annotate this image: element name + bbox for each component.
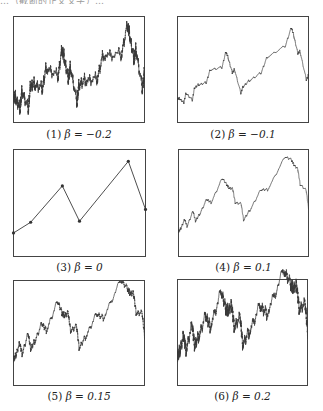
interpolation-point-marker xyxy=(12,231,15,234)
caption-beta: β = −0.2 xyxy=(65,128,112,140)
fractal-curve-line xyxy=(179,157,309,233)
chart-panel-5 xyxy=(13,280,145,386)
caption-beta: β = −0.1 xyxy=(229,128,276,140)
caption-3: (3) β = 0 xyxy=(13,261,146,273)
fractal-curve-line xyxy=(178,269,308,362)
fractal-curve-plot xyxy=(178,149,309,257)
caption-2: (2) β = −0.1 xyxy=(177,128,309,140)
caption-number: (3) xyxy=(56,261,71,273)
caption-beta: β = 0.2 xyxy=(232,390,270,402)
caption-number: (6) xyxy=(214,390,229,402)
interpolation-point-marker xyxy=(127,160,130,163)
fractal-curve-plot xyxy=(13,16,145,123)
interpolation-point-marker xyxy=(78,220,81,223)
caption-6: (6) β = 0.2 xyxy=(177,390,308,402)
fractal-curve-line xyxy=(178,28,309,104)
interpolation-point-marker xyxy=(29,221,32,224)
chart-panel-1 xyxy=(13,16,145,123)
fractal-curve-plot xyxy=(177,279,308,386)
plot-frame xyxy=(178,280,308,386)
caption-beta: β = 0 xyxy=(74,261,102,273)
fractal-curve-plot xyxy=(177,16,309,123)
fractal-curve-line xyxy=(14,21,145,115)
caption-1: (1) β = −0.2 xyxy=(13,128,145,140)
fractal-curve-plot xyxy=(13,149,146,257)
caption-5: (5) β = 0.15 xyxy=(13,390,145,402)
truncated-body-text: …（截断的正文文字）… xyxy=(0,0,323,4)
caption-beta: β = 0.1 xyxy=(233,261,271,273)
caption-number: (5) xyxy=(47,390,62,402)
plot-frame xyxy=(179,150,309,257)
caption-number: (4) xyxy=(215,261,230,273)
plot-frame xyxy=(14,150,146,257)
caption-beta: β = 0.15 xyxy=(66,390,111,402)
interpolation-point-marker xyxy=(144,208,147,211)
plot-frame xyxy=(14,281,145,386)
chart-panel-3 xyxy=(13,149,146,257)
chart-panel-6 xyxy=(177,279,308,386)
chart-panel-4 xyxy=(178,149,309,257)
fractal-curve-plot xyxy=(13,280,145,386)
chart-panel-2 xyxy=(177,16,309,123)
caption-4: (4) β = 0.1 xyxy=(178,261,309,273)
plot-frame xyxy=(14,17,145,123)
caption-number: (1) xyxy=(46,128,61,140)
plot-frame xyxy=(178,17,309,123)
caption-number: (2) xyxy=(210,128,225,140)
interpolation-point-marker xyxy=(61,184,64,187)
fractal-curve-line xyxy=(14,280,145,362)
